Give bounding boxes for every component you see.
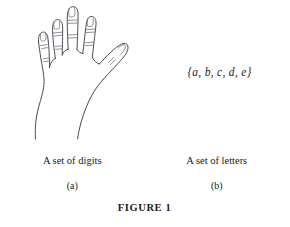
panel-b-sublabel: (b) [145,176,290,196]
panel-a-caption: A set of digits [0,150,145,172]
set-notation-text: {a, b, c, d, e} [187,66,251,78]
figure-root: {a, b, c, d, e} A set of digits A set of… [0,0,289,227]
hand-outline-group [35,7,128,139]
panel-sublabels-row: (a) (b) [0,176,289,196]
hand-illustration [8,2,143,142]
panel-captions-row: A set of digits A set of letters [0,150,289,172]
panel-b-caption: A set of letters [145,150,290,172]
figure-caption: FIGURE 1 [0,202,289,213]
set-notation-artwork: {a, b, c, d, e} [150,2,289,142]
panel-a-sublabel: (a) [0,176,145,196]
